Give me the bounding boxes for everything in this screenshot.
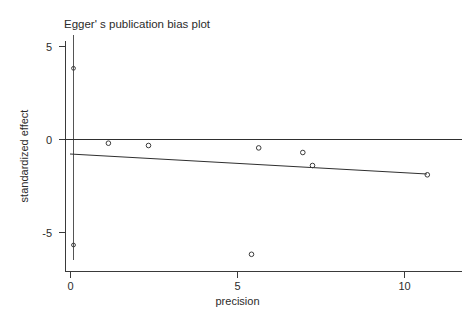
data-points-group <box>72 66 430 256</box>
x-tick-label-5: 5 <box>234 280 240 292</box>
data-point <box>256 146 261 151</box>
data-point <box>249 252 254 257</box>
x-tick-label-0: 0 <box>67 280 73 292</box>
y-tick-label-neg5: -5 <box>42 227 52 239</box>
data-point <box>106 141 111 146</box>
y-tick-label-0: 0 <box>46 134 52 146</box>
x-tick-label-10: 10 <box>398 280 410 292</box>
egger-publication-bias-plot: 5 0 -5 0 5 10 precision standardized eff… <box>0 0 475 312</box>
chart-title: Egger' s publication bias plot <box>64 18 211 30</box>
data-point <box>146 143 151 148</box>
y-tick-label-5: 5 <box>46 41 52 53</box>
chart-canvas: 5 0 -5 0 5 10 precision standardized eff… <box>0 0 475 312</box>
data-point <box>301 150 306 155</box>
data-point <box>425 173 430 178</box>
egger-regression-line <box>70 154 427 174</box>
y-axis-title: standardized effect <box>18 110 30 203</box>
x-axis-title: precision <box>215 295 259 307</box>
